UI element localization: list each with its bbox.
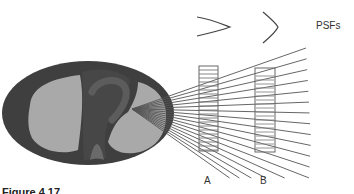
ray-fan bbox=[132, 48, 311, 178]
psf-curves bbox=[197, 12, 278, 43]
psf-curve-b bbox=[263, 12, 278, 43]
psfs-label: PSFs bbox=[316, 20, 340, 31]
psf-diagram: PSFs A B Figure 4.17 bbox=[0, 0, 354, 194]
psf-curve-a bbox=[197, 17, 230, 36]
figure-caption: Figure 4.17 bbox=[2, 186, 60, 194]
detector-a bbox=[199, 66, 218, 151]
diagram-canvas bbox=[0, 0, 354, 194]
detector-a-label: A bbox=[204, 175, 211, 186]
detector-b-label: B bbox=[260, 175, 267, 186]
